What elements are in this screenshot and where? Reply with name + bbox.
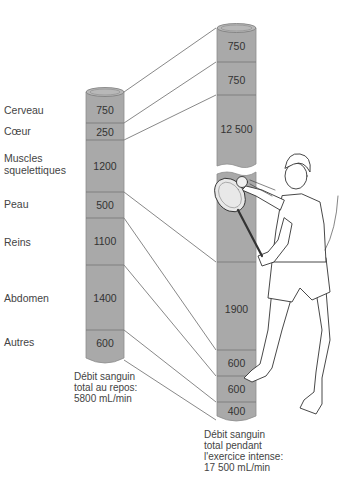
organ-label-autres: Autres xyxy=(4,336,34,348)
rest-value-reins: 1100 xyxy=(94,235,117,247)
organ-label-reins: Reins xyxy=(4,236,31,248)
organ-label-muscles-line2: squelettiques xyxy=(4,164,66,176)
rest-value-cerveau: 750 xyxy=(96,104,114,116)
exercise-value-reins: 600 xyxy=(228,357,246,369)
caption-exercise-total: Débit sanguin total pendant l'exercice i… xyxy=(204,429,283,473)
exercise-value-peau: 1900 xyxy=(225,303,249,315)
organ-label-muscles: Muscles squelettiques xyxy=(4,152,66,176)
exercise-value-abdomen: 600 xyxy=(228,383,246,395)
exercise-value-cerveau: 750 xyxy=(228,40,246,52)
exercise-value-coeur: 750 xyxy=(228,74,246,86)
organ-label-muscles-line1: Muscles xyxy=(4,152,43,164)
rest-value-muscles: 1200 xyxy=(93,160,117,172)
exercise-tube: 750 750 12 500 1900 600 600 400 xyxy=(217,24,256,422)
rest-tube: 750 250 1200 500 1100 1400 600 xyxy=(86,88,124,364)
organ-label-abdomen: Abdomen xyxy=(4,292,49,304)
organ-label-coeur: Cœur xyxy=(4,125,31,137)
connector-lines xyxy=(124,28,216,420)
organ-label-peau: Peau xyxy=(4,198,29,210)
rest-value-autres: 600 xyxy=(96,337,114,349)
organ-label-cerveau: Cerveau xyxy=(4,104,44,116)
exercise-value-muscles: 12 500 xyxy=(220,123,252,135)
caption-rest-total: Débit sanguin total au repos: 5800 mL/mi… xyxy=(74,371,137,404)
rest-value-coeur: 250 xyxy=(96,126,114,138)
blood-flow-diagram: 750 250 1200 500 1100 1400 600 750 750 1… xyxy=(0,0,356,478)
exercise-value-autres: 400 xyxy=(228,405,246,417)
rest-value-abdomen: 1400 xyxy=(93,292,117,304)
rest-value-peau: 500 xyxy=(96,199,114,211)
